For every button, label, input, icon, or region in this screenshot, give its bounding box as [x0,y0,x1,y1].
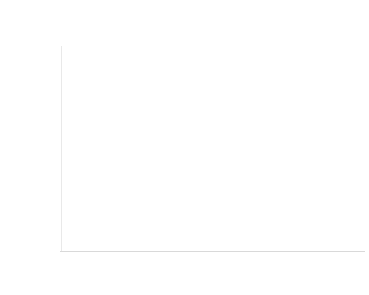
x-axis-baseline [60,251,365,252]
plot-area [62,46,365,251]
stacked-bar-chart [0,0,369,295]
bar-group [62,46,365,251]
y-axis-tick-labels [0,46,56,251]
